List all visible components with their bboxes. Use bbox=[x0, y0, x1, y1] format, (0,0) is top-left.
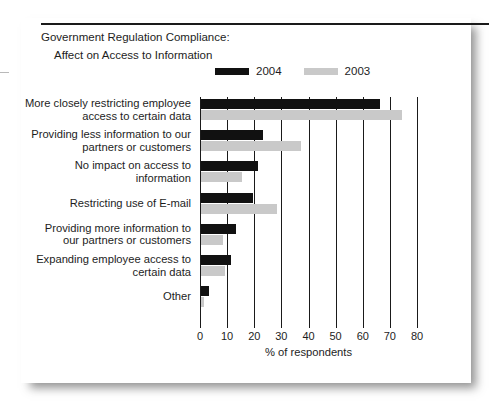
category-label-line: No impact on access to bbox=[23, 159, 191, 172]
category-label-line: our partners or customers bbox=[23, 234, 191, 247]
chart-legend: 20042003 bbox=[215, 66, 370, 78]
category-row: Providing more information toour partner… bbox=[200, 224, 417, 245]
legend-label-2003: 2003 bbox=[345, 66, 371, 78]
category-label-line: Providing more information to bbox=[23, 222, 191, 235]
category-row: Providing less information to ourpartner… bbox=[200, 130, 417, 151]
bar-2004 bbox=[201, 286, 209, 296]
category-label-line: information bbox=[23, 172, 191, 185]
bar-2004 bbox=[201, 193, 253, 203]
category-label: Other bbox=[23, 290, 191, 303]
category-row: Other bbox=[200, 286, 417, 307]
bar-2003 bbox=[201, 172, 242, 182]
plot-area: 01020304050607080More closely restrictin… bbox=[200, 97, 417, 321]
bar-2003 bbox=[201, 141, 301, 151]
bar-2004 bbox=[201, 255, 231, 265]
category-label-line: certain data bbox=[23, 266, 191, 279]
category-label: More closely restricting employeeaccess … bbox=[23, 97, 191, 122]
bar-2004 bbox=[201, 130, 263, 140]
category-row: Restricting use of E-mail bbox=[200, 193, 417, 214]
x-tick-label-60: 60 bbox=[357, 330, 369, 342]
legend-label-2004: 2004 bbox=[256, 66, 282, 78]
bar-2003 bbox=[201, 297, 204, 307]
bar-2003 bbox=[201, 266, 225, 276]
legend-swatch-2004 bbox=[215, 68, 249, 75]
category-label: Restricting use of E-mail bbox=[23, 197, 191, 210]
legend-entry-2004: 2004 bbox=[215, 66, 282, 78]
category-label-line: Restricting use of E-mail bbox=[23, 197, 191, 210]
x-tick-label-30: 30 bbox=[275, 330, 287, 342]
x-tick-label-10: 10 bbox=[221, 330, 233, 342]
category-label: No impact on access toinformation bbox=[23, 159, 191, 184]
x-tick-label-20: 20 bbox=[248, 330, 260, 342]
figure-top-rule bbox=[41, 23, 489, 25]
category-label-line: partners or customers bbox=[23, 141, 191, 154]
x-tick-label-50: 50 bbox=[330, 330, 342, 342]
x-tick-mark-70 bbox=[390, 321, 391, 328]
figure-title-line-2: Affect on Access to Information bbox=[54, 49, 212, 61]
gridline-80 bbox=[417, 97, 418, 321]
bar-2004 bbox=[201, 99, 380, 109]
category-row: No impact on access toinformation bbox=[200, 161, 417, 182]
page-canvas: Government Regulation Compliance: Affect… bbox=[0, 0, 496, 419]
x-tick-label-40: 40 bbox=[302, 330, 314, 342]
legend-swatch-2003 bbox=[304, 68, 338, 75]
x-tick-mark-30 bbox=[281, 321, 282, 328]
bar-2004 bbox=[201, 224, 236, 234]
bar-2004 bbox=[201, 161, 258, 171]
category-label-line: Providing less information to our bbox=[23, 128, 191, 141]
x-tick-mark-10 bbox=[227, 321, 228, 328]
category-label-line: Expanding employee access to bbox=[23, 253, 191, 266]
bar-2003 bbox=[201, 110, 402, 120]
category-label: Providing more information toour partner… bbox=[23, 222, 191, 247]
figure-title-line-1: Government Regulation Compliance: bbox=[41, 31, 230, 43]
category-label: Expanding employee access tocertain data bbox=[23, 253, 191, 278]
legend-entry-2003: 2003 bbox=[304, 66, 371, 78]
category-row: Expanding employee access tocertain data bbox=[200, 255, 417, 276]
x-tick-mark-50 bbox=[336, 321, 337, 328]
category-label-line: More closely restricting employee bbox=[23, 97, 191, 110]
category-row: More closely restricting employeeaccess … bbox=[200, 99, 417, 120]
x-tick-mark-80 bbox=[417, 321, 418, 328]
category-label-line: Other bbox=[23, 290, 191, 303]
figure-card: Government Regulation Compliance: Affect… bbox=[21, 18, 471, 383]
x-tick-mark-0 bbox=[200, 321, 201, 328]
x-tick-mark-40 bbox=[309, 321, 310, 328]
x-tick-label-0: 0 bbox=[197, 330, 203, 342]
x-tick-mark-20 bbox=[254, 321, 255, 328]
x-tick-label-70: 70 bbox=[384, 330, 396, 342]
scan-artifact-dash bbox=[0, 72, 9, 73]
x-tick-label-80: 80 bbox=[411, 330, 423, 342]
page-footer-smudge bbox=[24, 400, 476, 414]
bar-2003 bbox=[201, 235, 223, 245]
category-label-line: access to certain data bbox=[23, 110, 191, 123]
x-axis-title: % of respondents bbox=[200, 346, 417, 358]
bar-2003 bbox=[201, 204, 277, 214]
x-tick-mark-60 bbox=[363, 321, 364, 328]
category-label: Providing less information to ourpartner… bbox=[23, 128, 191, 153]
